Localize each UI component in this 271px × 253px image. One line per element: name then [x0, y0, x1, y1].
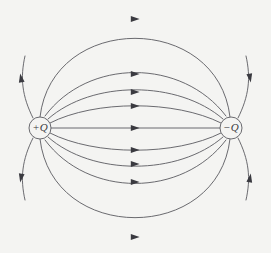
field-line-inner-arc-up-1: [50, 106, 221, 123]
field-line-inner-arc-down-1: [50, 133, 221, 150]
field-line-inner-arc-up-3: [45, 73, 226, 117]
arrowhead-axis-line-0: [131, 125, 140, 131]
field-line-canvas: +Q−Q: [0, 0, 271, 253]
field-line-escape-lower-right: [238, 138, 249, 200]
arrowhead-inner-arc-down-1-0: [131, 147, 140, 153]
arrowhead-escape-upper-left-0: [17, 73, 24, 83]
field-line-inner-arc-down-3: [45, 140, 226, 184]
arrowhead-outer-arc-down-0: [131, 234, 140, 240]
field-line-inner-arc-up-2: [48, 90, 223, 119]
arrowhead-inner-arc-down-3-0: [131, 179, 140, 185]
arrowhead-outer-arc-up-0: [131, 16, 140, 22]
negative-charge-label: −Q: [223, 121, 238, 133]
arrowhead-escape-upper-right-0: [246, 73, 253, 83]
positive-charge-label: +Q: [32, 121, 47, 133]
field-line-escape-upper-right: [238, 56, 249, 118]
field-line-inner-arc-down-2: [48, 137, 223, 166]
arrowhead-inner-arc-up-3-0: [131, 71, 140, 77]
dipole-field-diagram: +Q−Q: [0, 0, 271, 253]
field-line-escape-upper-left: [22, 56, 33, 118]
field-line-escape-lower-left: [22, 138, 33, 200]
arrowhead-escape-lower-right-0: [246, 173, 253, 183]
arrowhead-inner-arc-up-1-0: [131, 103, 140, 109]
arrowhead-escape-lower-left-0: [17, 173, 24, 183]
